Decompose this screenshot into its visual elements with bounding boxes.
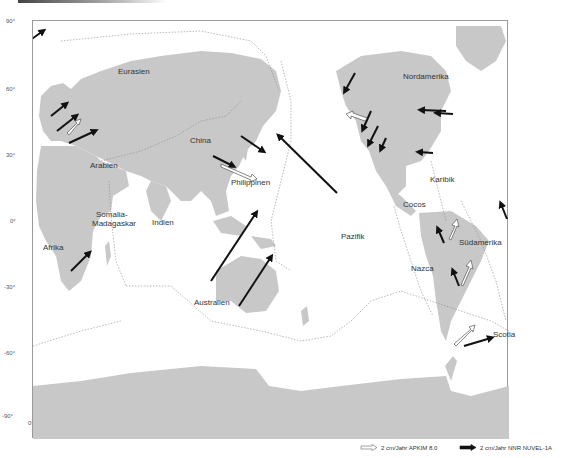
label-nazca: Nazca: [411, 264, 434, 273]
label-australien: Australien: [194, 298, 230, 307]
legend-apkim-label: 2 cm/Jahr APKIM 8.0: [381, 445, 437, 451]
label-nordamerika: Nordamerika: [403, 72, 449, 81]
world-map: [33, 21, 509, 439]
lat-label-30: 30°: [6, 152, 15, 158]
top-decorative-bar: [18, 0, 168, 3]
label-afrika: Afrika: [43, 243, 63, 252]
lat-label-60: 60°: [6, 86, 15, 92]
label-eurasien: Eurasien: [118, 67, 150, 76]
label-pazifik: Pazifik: [341, 232, 365, 241]
label-philippinen: Philippinen: [231, 178, 270, 187]
label-scotia: Scotia: [493, 330, 515, 339]
lat-label-minus30: -30°: [4, 284, 15, 290]
label-china: China: [190, 136, 211, 145]
lat-label-0: 0°: [10, 218, 16, 224]
label-somalia: Somalia-: [96, 210, 128, 219]
label-suedamerika: Südamerika: [459, 238, 502, 247]
black-arrow-icon: [459, 444, 477, 451]
lat-label-minus90: -90°: [2, 413, 13, 419]
legend-nuvel-label: 2 cm/Jahr NNR NUVEL-1A: [480, 445, 552, 451]
label-indien: Indien: [152, 218, 174, 227]
label-arabien: Arabien: [90, 161, 118, 170]
legend-apkim: 2 cm/Jahr APKIM 8.0: [360, 444, 437, 451]
label-karibik: Karibik: [430, 175, 454, 184]
label-cocos: Cocos: [403, 200, 426, 209]
lat-label-minus60: -60°: [4, 350, 15, 356]
landmasses: [33, 26, 509, 439]
label-madagaskar: Madagaskar: [92, 219, 136, 228]
legend-nuvel: 2 cm/Jahr NNR NUVEL-1A: [459, 444, 552, 451]
white-arrow-icon: [360, 444, 378, 451]
map-frame: [32, 20, 508, 438]
lat-label-90: 90°: [6, 18, 15, 24]
